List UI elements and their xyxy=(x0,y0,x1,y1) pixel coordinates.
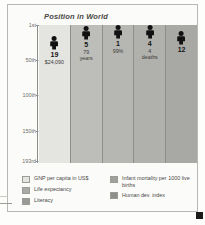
axis-tick-label: 150th xyxy=(23,128,37,134)
bar-marker: 579years xyxy=(71,26,102,61)
legend-swatch xyxy=(110,192,118,199)
legend-item[interactable]: Life expectancy xyxy=(22,186,110,194)
legend-label: GNP per capita in US$ xyxy=(34,175,88,182)
rank-value: 1 xyxy=(103,40,134,48)
metric-value: 99% xyxy=(103,48,134,54)
plot-inner: 1st50th100th150th193rd 19$24,090 579year… xyxy=(37,25,197,163)
bar-marker: 19$24,090 xyxy=(39,36,70,65)
person-icon xyxy=(71,26,102,40)
person-icon xyxy=(166,31,197,45)
legend-label: Infant mortality per 1000 live births xyxy=(122,175,198,188)
axis-tick xyxy=(36,161,38,162)
rank-value: 19 xyxy=(39,51,70,59)
metric-value: $24,090 xyxy=(39,59,70,65)
bar-gnp-per-capita[interactable]: 19$24,090 xyxy=(39,25,71,163)
bar-marker: 44deaths xyxy=(134,25,165,60)
metric-unit: deaths xyxy=(134,54,165,60)
legend: GNP per capita in US$Life expectancyLite… xyxy=(22,175,198,208)
resize-handle[interactable] xyxy=(196,212,203,219)
person-icon xyxy=(39,36,70,50)
axis-tick-label: 1st xyxy=(29,22,36,28)
legend-column-right: Infant mortality per 1000 live birthsHum… xyxy=(110,175,198,208)
legend-item[interactable]: Human dev. index xyxy=(110,192,198,200)
legend-label: Life expectancy xyxy=(34,186,71,193)
axis-tick-label: 50th xyxy=(26,57,37,63)
legend-swatch xyxy=(110,176,118,183)
bar-marker: 12 xyxy=(166,31,197,54)
frame-bleed-line-secondary xyxy=(0,196,8,197)
bar-literacy[interactable]: 199% xyxy=(103,25,135,163)
rank-value: 12 xyxy=(166,46,197,54)
axis-tick xyxy=(36,95,38,96)
axis-tick xyxy=(36,131,38,132)
bar-infant-mortality[interactable]: 44deaths xyxy=(134,25,166,163)
plot-area: 1st50th100th150th193rd 19$24,090 579year… xyxy=(37,25,197,163)
axis-tick xyxy=(36,60,38,61)
bar-life-expectancy[interactable]: 579years xyxy=(71,25,103,163)
legend-item[interactable]: GNP per capita in US$ xyxy=(22,175,110,183)
axis-tick-label: 100th xyxy=(23,92,37,98)
bar-human-dev-index[interactable]: 12 xyxy=(166,25,197,163)
axis-tick-label: 193rd xyxy=(22,158,36,164)
legend-swatch xyxy=(22,176,30,183)
legend-item[interactable]: Literacy xyxy=(22,197,110,205)
person-icon xyxy=(134,25,165,39)
legend-swatch xyxy=(22,187,30,194)
rank-value: 5 xyxy=(71,41,102,49)
chart-title: Position in World xyxy=(44,12,108,21)
legend-swatch xyxy=(22,198,30,205)
legend-column-left: GNP per capita in US$Life expectancyLite… xyxy=(22,175,110,208)
metric-unit: years xyxy=(71,55,102,61)
chart-frame: Position in World 1st50th100th150th193rd… xyxy=(7,4,198,212)
legend-label: Human dev. index xyxy=(122,192,165,199)
bar-marker: 199% xyxy=(103,25,134,54)
bars-container: 19$24,090 579years 199% 44deaths 12 xyxy=(39,25,197,163)
legend-item[interactable]: Infant mortality per 1000 live births xyxy=(110,175,198,188)
frame-bleed-line xyxy=(0,203,12,204)
figure-root: Position in World 1st50th100th150th193rd… xyxy=(0,0,205,225)
person-icon xyxy=(103,25,134,39)
axis-tick xyxy=(36,25,38,26)
legend-label: Literacy xyxy=(34,197,53,204)
rank-value: 4 xyxy=(134,40,165,48)
